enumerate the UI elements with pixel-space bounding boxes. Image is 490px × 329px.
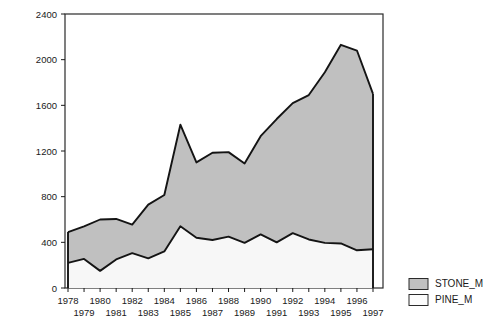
x-tick-label: 1984 [154, 295, 175, 306]
x-tick-label: 1982 [122, 295, 143, 306]
x-tick-label: 1993 [298, 307, 319, 318]
x-tick-label: 1980 [90, 295, 111, 306]
x-tick-label: 1995 [330, 307, 351, 318]
x-tick-label: 1997 [362, 307, 383, 318]
x-tick-label: 1979 [73, 307, 94, 318]
y-tick-label: 1200 [36, 146, 57, 157]
y-tick-label: 400 [41, 237, 57, 248]
x-tick-label: 1986 [186, 295, 207, 306]
area-chart: 04008001200160020002400 1978197919801981… [0, 0, 490, 329]
x-tick-label: 1987 [202, 307, 223, 318]
legend-label: STONE_M [435, 278, 483, 289]
legend-label: PINE_M [435, 294, 472, 305]
x-tick-label: 1981 [106, 307, 127, 318]
legend-swatch [409, 295, 428, 306]
x-tick-label: 1988 [218, 295, 239, 306]
y-tick-label: 1600 [36, 100, 57, 111]
x-tick-label: 1991 [266, 307, 287, 318]
x-tick-label: 1983 [138, 307, 159, 318]
chart-canvas: 04008001200160020002400 1978197919801981… [0, 0, 490, 329]
x-tick-label: 1992 [282, 295, 303, 306]
x-tick-label: 1996 [346, 295, 367, 306]
y-tick-label: 2000 [36, 54, 57, 65]
y-tick-label: 2400 [36, 9, 57, 20]
y-tick-label: 0 [52, 283, 57, 294]
x-tick-label: 1989 [234, 307, 255, 318]
x-tick-label: 1985 [170, 307, 191, 318]
x-tick-label: 1994 [314, 295, 335, 306]
x-tick-label: 1990 [250, 295, 271, 306]
y-tick-label: 800 [41, 191, 57, 202]
x-tick-label: 1978 [57, 295, 78, 306]
legend-swatch [409, 279, 428, 290]
